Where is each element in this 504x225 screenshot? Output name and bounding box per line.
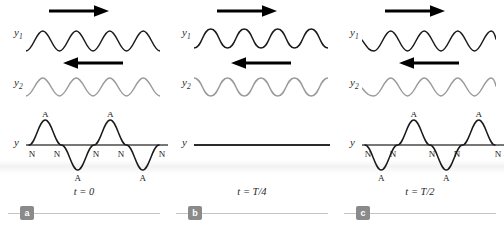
panel-b: y1 y2 y t = T/ (168, 0, 336, 225)
rightward-propagation-arrow (216, 4, 278, 18)
panel-badge-bar: a (8, 205, 160, 221)
resultant-wave-row: A A A A N N N N N (336, 112, 504, 182)
panel-badge-a[interactable]: a (20, 206, 34, 220)
antinode-label: A (140, 173, 147, 182)
panel-badge-b[interactable]: b (188, 206, 202, 220)
node-label: N (159, 149, 166, 159)
node-label: N (118, 149, 125, 159)
antinode-label: A (42, 112, 49, 119)
antinode-label: A (443, 173, 450, 182)
panel-badge-bar: c (344, 205, 496, 221)
panel-badge-bar: b (176, 205, 328, 221)
antinode-label: A (75, 173, 82, 182)
node-label: N (495, 149, 502, 159)
panel-caption: t = 0 (0, 186, 168, 197)
panel-badge-c[interactable]: c (356, 206, 370, 220)
resultant-standing-wave: A A A A N N N N N (26, 112, 168, 182)
panel-caption: t = T/4 (168, 186, 336, 197)
resultant-standing-wave-inverted: A A A A N N N N N (362, 112, 504, 182)
y2-wave-row (0, 68, 168, 114)
node-label: N (390, 149, 397, 159)
panel-c: y1 y2 y A (336, 0, 504, 225)
node-label: N (454, 149, 461, 159)
y2-waveform (194, 68, 328, 114)
node-label: N (93, 149, 100, 159)
panel-a: y1 y2 y A (0, 0, 168, 225)
node-label: N (29, 149, 36, 159)
resultant-wave-row: A A A A N N N N N (0, 112, 168, 182)
node-label: N (365, 149, 372, 159)
rightward-propagation-arrow (48, 4, 110, 18)
node-label: N (429, 149, 436, 159)
node-label: N (54, 149, 61, 159)
y2-wave-row (168, 68, 336, 114)
y2-wave-row (336, 68, 504, 114)
y2-waveform (362, 68, 496, 114)
panel-caption: t = T/2 (336, 186, 504, 197)
antinode-label: A (378, 173, 385, 182)
resultant-flat-line (194, 112, 336, 182)
antinode-label: A (411, 112, 418, 119)
standing-wave-figure: y1 y2 y A (0, 0, 504, 225)
resultant-wave-row (168, 112, 336, 182)
y2-waveform (26, 68, 160, 114)
rightward-propagation-arrow (384, 4, 446, 18)
antinode-label: A (107, 112, 114, 119)
antinode-label: A (476, 112, 483, 119)
